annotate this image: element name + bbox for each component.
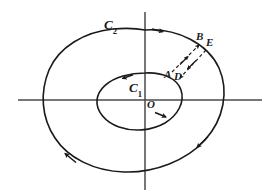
axes-group <box>18 12 262 190</box>
point-label-E: E <box>206 37 213 48</box>
origin-label: O <box>147 99 155 110</box>
inner-orbit-arrow-lower-right <box>155 113 166 118</box>
point-label-D: D <box>174 71 182 82</box>
curve-label-C1-subscript: 1 <box>138 89 142 99</box>
point-label-A: A <box>164 69 171 80</box>
phase-portrait-figure: C2 C1 O A D B E <box>0 0 276 196</box>
curve-label-C2: C2 <box>104 18 117 34</box>
curve-label-C1: C1 <box>129 81 142 97</box>
curve-label-C2-subscript: 2 <box>113 26 117 36</box>
point-label-B: B <box>196 31 203 42</box>
outer-orbit-arrow-bottom-right <box>197 137 208 148</box>
curve-label-C2-main: C <box>104 17 113 32</box>
curve-label-C1-main: C <box>129 80 138 95</box>
dashed-trajectory-E-D-midarrow <box>188 61 197 70</box>
dashed-trajectory-A-B-midarrow <box>180 57 188 65</box>
